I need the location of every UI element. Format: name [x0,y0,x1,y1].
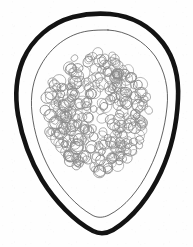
figure-background [0,0,193,247]
egg-diagram: Egg with thick outer shell, inner membra… [0,0,193,247]
figure-root: Egg with thick outer shell, inner membra… [0,0,193,247]
